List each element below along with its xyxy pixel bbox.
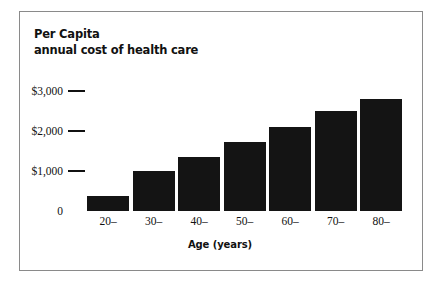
- x-axis-title: Age (years): [0, 239, 440, 250]
- y-axis-tick-dash: [68, 170, 85, 172]
- bar-80: [360, 99, 402, 211]
- y-axis-tick-label: $2,000: [31, 124, 63, 138]
- chart-figure: Per Capita annual cost of health care $3…: [0, 0, 440, 283]
- plot-area: $3,000 $2,000 $1,000 0 20– 30– 40– 50– 6…: [0, 0, 440, 283]
- y-axis-tick-dash: [68, 90, 85, 92]
- y-axis-tick-3000: $3,000: [0, 84, 85, 98]
- bar-50: [224, 142, 266, 211]
- y-axis-tick-label: $1,000: [31, 164, 63, 178]
- bar-60: [269, 127, 311, 211]
- x-axis-tick-label-80: 80–: [351, 215, 411, 227]
- y-axis-tick-2000: $2,000: [0, 124, 85, 138]
- bar-30: [133, 171, 175, 211]
- y-axis-tick-0: 0: [0, 204, 85, 218]
- y-axis-tick-label: $3,000: [31, 84, 63, 98]
- y-axis-tick-1000: $1,000: [0, 164, 85, 178]
- bar-40: [178, 157, 220, 211]
- y-axis-tick-dash: [68, 130, 85, 132]
- bar-20: [87, 196, 129, 211]
- bar-70: [315, 111, 357, 211]
- y-axis-tick-label: 0: [57, 204, 63, 218]
